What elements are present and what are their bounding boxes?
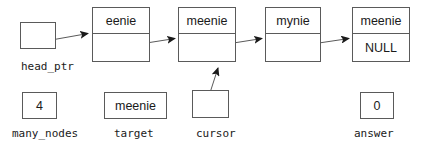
variable-box-many-nodes: 4 xyxy=(22,92,57,119)
list-node-3-link xyxy=(266,34,320,62)
list-node-4: meenie NULL xyxy=(352,7,410,62)
list-node-4-link: NULL xyxy=(353,34,409,62)
variable-label-cursor: cursor xyxy=(196,127,236,140)
list-node-3-data: mynie xyxy=(266,8,320,34)
variable-label-answer: answer xyxy=(354,127,394,140)
variable-box-answer: 0 xyxy=(360,92,394,119)
list-node-1-data: eenie xyxy=(93,8,149,34)
list-node-2: meenie xyxy=(178,7,236,62)
variable-label-target: target xyxy=(114,127,154,140)
list-node-1-link xyxy=(93,34,149,62)
variable-label-head-ptr: head_ptr xyxy=(21,60,74,73)
variable-label-many-nodes: many_nodes xyxy=(12,127,78,140)
list-node-2-data: meenie xyxy=(179,8,235,34)
variable-box-head-ptr xyxy=(20,22,56,49)
variable-box-cursor xyxy=(192,90,229,118)
variable-box-target: meenie xyxy=(104,92,167,119)
list-node-4-data: meenie xyxy=(353,8,409,34)
linked-list-diagram: eenie meenie mynie meenie NULL head_ptr … xyxy=(0,0,425,146)
list-node-1: eenie xyxy=(92,7,150,62)
list-node-3: mynie xyxy=(265,7,321,62)
list-node-2-link xyxy=(179,34,235,62)
